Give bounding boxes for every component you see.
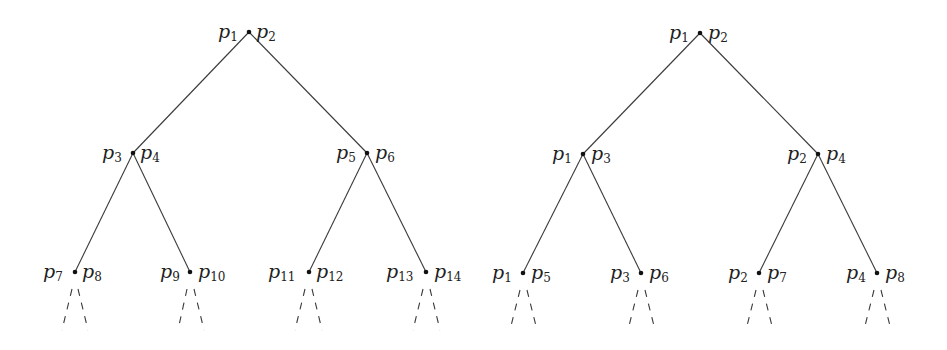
node-label-left: p4 (846, 261, 866, 285)
edge (759, 154, 818, 273)
edge (583, 154, 641, 273)
dashed-edge (62, 289, 72, 330)
node-label-right: p2 (708, 21, 728, 45)
dashed-edge (312, 289, 322, 330)
edge (367, 153, 426, 272)
edge (249, 32, 367, 153)
right-tree: p1 p2 p1 p3 p2 p4 p1 p5 p3 p6 p2 p7 p4 p… (492, 21, 905, 330)
tree-node (188, 270, 193, 275)
edge (75, 153, 133, 272)
tree-node (365, 151, 370, 156)
edge (818, 154, 877, 273)
dashed-edge (645, 290, 655, 330)
tree-node (131, 151, 136, 156)
dashed-edge (746, 290, 756, 330)
tree-node (875, 271, 880, 276)
node-label-right: p3 (591, 142, 611, 166)
edge (700, 33, 818, 154)
node-label-right: p8 (82, 260, 102, 284)
node-label-left: p3 (610, 261, 630, 285)
node-label-right: p6 (375, 141, 395, 165)
node-label-left: p2 (728, 261, 748, 285)
tree-node (816, 152, 821, 157)
tree-node (307, 270, 312, 275)
dashed-edge (527, 290, 537, 330)
edge (309, 153, 367, 272)
node-label-right: p6 (649, 261, 669, 285)
node-label-left: p7 (43, 260, 63, 284)
node-label-left: p1 (218, 20, 238, 44)
dashed-edge (194, 289, 204, 330)
dashed-edge (763, 290, 773, 330)
node-label-left: p11 (268, 260, 295, 284)
edge (523, 154, 583, 273)
node-label-right: p8 (885, 261, 905, 285)
node-label-left: p5 (336, 141, 356, 165)
node-label-left: p9 (160, 260, 180, 284)
edge (133, 32, 249, 153)
node-label-left: p13 (386, 260, 413, 284)
tree-node (757, 271, 762, 276)
dashed-edge (78, 289, 88, 330)
node-label-left: p1 (552, 142, 572, 166)
dashed-edge (295, 289, 305, 330)
node-label-left: p1 (669, 21, 689, 45)
node-label-right: p12 (316, 260, 343, 284)
dashed-edge (864, 290, 874, 330)
node-label-left: p2 (787, 142, 807, 166)
dashed-edge (628, 290, 638, 330)
node-label-right: p7 (767, 261, 787, 285)
node-label-right: p5 (531, 261, 551, 285)
tree-node (73, 270, 78, 275)
edge (133, 153, 190, 272)
dashed-edge (413, 289, 423, 330)
dashed-edge (510, 290, 520, 330)
left-tree: p1 p2 p3 p4 p5 p6 p7 p8 p9 p10 p11 p12 p… (43, 20, 462, 330)
tree-diagram: p1 p2 p3 p4 p5 p6 p7 p8 p9 p10 p11 p12 p… (0, 0, 947, 350)
dashed-edge (178, 289, 187, 330)
tree-node (247, 30, 252, 35)
node-label-left: p3 (102, 141, 122, 165)
tree-node (698, 31, 703, 36)
node-label-right: p4 (826, 142, 846, 166)
tree-node (581, 152, 586, 157)
tree-node (521, 271, 526, 276)
tree-node (639, 271, 644, 276)
tree-node (424, 270, 429, 275)
node-label-left: p1 (492, 261, 512, 285)
node-label-right: p14 (434, 260, 462, 284)
node-label-right: p10 (198, 260, 225, 284)
dashed-edge (881, 290, 891, 330)
node-label-right: p2 (256, 20, 276, 44)
edge (583, 33, 700, 154)
dashed-edge (430, 289, 440, 330)
node-label-right: p4 (140, 141, 160, 165)
